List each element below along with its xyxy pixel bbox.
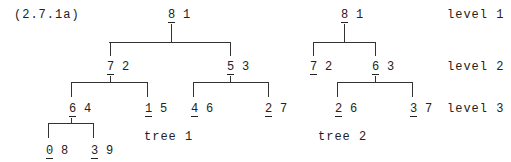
tree1-caption: tree 1 (144, 131, 193, 143)
edge (412, 82, 413, 97)
edge (313, 42, 376, 43)
edge (71, 82, 72, 97)
edge (313, 42, 314, 56)
node-value: 1 (183, 9, 190, 21)
node-key: 4 (191, 103, 198, 117)
node-value: 5 (160, 103, 167, 115)
node-key: 7 (107, 61, 114, 75)
edge (93, 123, 94, 138)
edge (110, 42, 111, 56)
node-value: 2 (325, 61, 332, 73)
level-label-2: level 2 (447, 61, 504, 73)
edge (375, 42, 376, 56)
node-value: 6 (350, 103, 357, 115)
edge (71, 82, 148, 83)
edge (147, 82, 148, 97)
node-value: 8 (61, 145, 68, 157)
edge (268, 82, 269, 97)
node-value: 7 (280, 103, 287, 115)
node-value: 6 (206, 103, 213, 115)
node-key: 2 (265, 103, 272, 117)
edge (48, 123, 94, 124)
tree2-caption: tree 2 (318, 131, 367, 143)
node-key: 7 (310, 61, 317, 75)
edge (48, 123, 49, 138)
node-key: 6 (69, 103, 76, 117)
edge (337, 82, 413, 83)
edge (171, 24, 172, 42)
node-key: 2 (335, 103, 342, 117)
edge (344, 24, 345, 42)
node-key: 6 (372, 61, 379, 75)
edge (109, 42, 231, 43)
node-key: 8 (168, 9, 175, 23)
edge (193, 82, 194, 97)
node-key: 3 (410, 103, 417, 117)
node-value: 2 (122, 61, 129, 73)
node-key: 0 (46, 145, 53, 159)
node-value: 7 (425, 103, 432, 115)
node-value: 9 (106, 145, 113, 157)
node-key: 3 (91, 145, 98, 159)
edge (230, 42, 231, 56)
edge (193, 82, 269, 83)
node-value: 3 (242, 61, 249, 73)
node-value: 3 (387, 61, 394, 73)
level-label-1: level 1 (447, 9, 504, 21)
edge (337, 82, 338, 97)
node-key: 5 (227, 61, 234, 75)
node-key: 8 (341, 9, 348, 23)
node-value: 1 (356, 9, 363, 21)
equation-label: (2.7.1a) (14, 9, 80, 21)
node-key: 1 (145, 103, 152, 117)
node-value: 4 (84, 103, 91, 115)
level-label-3: level 3 (447, 103, 504, 115)
